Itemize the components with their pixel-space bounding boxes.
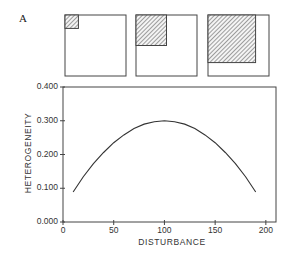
inset-high-disturbance bbox=[208, 15, 269, 76]
inset-diagrams bbox=[65, 15, 269, 76]
y-axis-label: HETEROGENEITY bbox=[23, 103, 33, 203]
x-tick-label: 100 bbox=[149, 225, 179, 235]
hatched-patch bbox=[136, 15, 167, 46]
x-tick-label: 50 bbox=[99, 225, 129, 235]
x-tick-label: 0 bbox=[48, 225, 78, 235]
plot-area bbox=[60, 87, 276, 225]
heterogeneity-curve bbox=[73, 121, 256, 192]
inset-medium-disturbance bbox=[136, 15, 197, 76]
x-tick-label: 200 bbox=[251, 225, 281, 235]
y-tick-label: 0.400 bbox=[18, 81, 58, 91]
inset-low-disturbance bbox=[65, 15, 126, 76]
hatched-patch bbox=[208, 15, 256, 63]
x-tick-label: 150 bbox=[200, 225, 230, 235]
hatched-patch bbox=[65, 15, 78, 28]
plot-frame bbox=[63, 87, 276, 222]
x-axis-label: DISTURBANCE bbox=[110, 237, 234, 247]
